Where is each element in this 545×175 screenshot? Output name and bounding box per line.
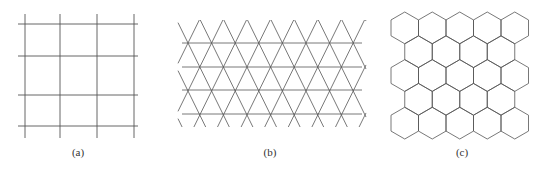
panel-b-caption: (b) — [264, 146, 277, 158]
panel-a-square-grid — [18, 14, 138, 138]
panel-c-caption: (c) — [456, 146, 468, 158]
panel-b-triangular-grid — [178, 20, 366, 127]
panel-a-caption: (a) — [72, 146, 84, 158]
panel-c-hexagonal-grid — [391, 12, 529, 139]
